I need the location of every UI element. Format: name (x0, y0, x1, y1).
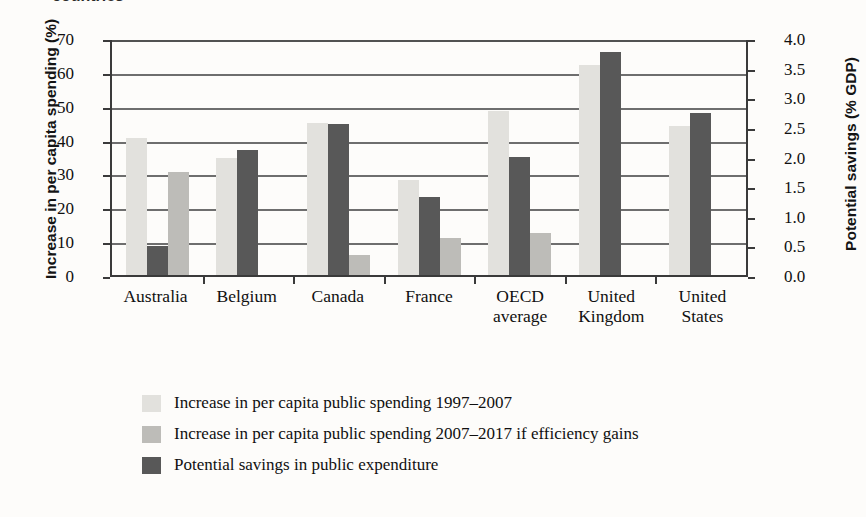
legend-item: Potential savings in public expenditure (142, 455, 639, 475)
bar-spending-2007-2017 (168, 172, 189, 275)
x-axis-tick (203, 276, 205, 284)
right-tick-mark (748, 129, 755, 131)
right-tick-mark (748, 277, 755, 279)
x-axis-tick (655, 276, 657, 284)
category-label: France (383, 287, 474, 326)
legend-label: Potential savings in public expenditure (174, 455, 438, 475)
left-tick-mark (103, 40, 110, 42)
right-tick-mark (748, 247, 755, 249)
legend-item: Increase in per capita public spending 1… (142, 393, 639, 413)
bar-group (474, 40, 565, 275)
bar-potential-savings (328, 124, 349, 275)
right-tick-label: 3.0 (784, 90, 805, 107)
category-label-line: Kingdom (566, 307, 657, 327)
bar-group (112, 40, 203, 275)
bar-group (655, 40, 746, 275)
right-tick-label: 3.5 (784, 61, 805, 78)
category-label: UnitedKingdom (566, 287, 657, 326)
category-label-line: States (657, 307, 748, 327)
right-tick-label: 1.5 (784, 179, 805, 196)
right-tick-label: 4.0 (784, 31, 805, 48)
legend-swatch-icon (142, 426, 161, 443)
legend-swatch-icon (142, 395, 161, 412)
bar-potential-savings (147, 246, 168, 275)
left-tick-mark (103, 108, 110, 110)
left-tick-mark (103, 209, 110, 211)
category-label: UnitedStates (657, 287, 748, 326)
bar-group (293, 40, 384, 275)
category-label-line: Canada (292, 287, 383, 307)
right-axis-title: Potential savings (% GDP) (842, 29, 860, 279)
left-tick-label: 0 (65, 268, 74, 285)
right-tick-label: 1.0 (784, 209, 805, 226)
left-tick-label: 50 (57, 99, 74, 116)
category-label: Australia (110, 287, 201, 326)
category-label-line: OECD (475, 287, 566, 307)
bar-spending-1997-2007 (488, 111, 509, 275)
legend-swatch-icon (142, 457, 161, 474)
right-tick-mark (748, 70, 755, 72)
category-label-line: average (475, 307, 566, 327)
x-axis-tick (474, 276, 476, 284)
bar-spending-2007-2017 (440, 238, 461, 275)
bar-spending-1997-2007 (307, 123, 328, 275)
bar-potential-savings (600, 52, 621, 275)
category-label-line: Australia (110, 287, 201, 307)
bar-potential-savings (690, 113, 711, 276)
bar-potential-savings (237, 150, 258, 275)
bar-spending-1997-2007 (126, 138, 147, 275)
x-axis-tick (565, 276, 567, 284)
bar-spending-1997-2007 (669, 126, 690, 275)
chart-legend: Increase in per capita public spending 1… (142, 393, 639, 475)
right-tick-mark (748, 159, 755, 161)
right-tick-mark (748, 218, 755, 220)
right-tick-mark (748, 99, 755, 101)
left-tick-label: 30 (57, 166, 74, 183)
right-tick-label: 2.5 (784, 120, 805, 137)
left-tick-label: 10 (57, 234, 74, 251)
category-label: OECDaverage (475, 287, 566, 326)
left-tick-mark (103, 142, 110, 144)
right-tick-label: 0.0 (784, 268, 805, 285)
bar-chart-figure: Increase in per capita spending (%) Pote… (0, 0, 866, 517)
category-label-line: France (383, 287, 474, 307)
left-tick-mark (103, 277, 110, 279)
left-tick-mark (103, 74, 110, 76)
left-tick-label: 70 (57, 31, 74, 48)
category-label-line: Belgium (201, 287, 292, 307)
x-axis-tick (293, 276, 295, 284)
bar-groups (112, 40, 746, 275)
right-tick-label: 0.5 (784, 238, 805, 255)
left-tick-label: 40 (57, 133, 74, 150)
category-label: Belgium (201, 287, 292, 326)
bar-spending-1997-2007 (216, 158, 237, 275)
category-label: Canada (292, 287, 383, 326)
right-tick-mark (748, 188, 755, 190)
category-label-line: United (566, 287, 657, 307)
left-tick-label: 20 (57, 200, 74, 217)
bar-potential-savings (419, 197, 440, 275)
right-tick-mark (748, 40, 755, 42)
bar-potential-savings (509, 157, 530, 276)
legend-label: Increase in per capita public spending 1… (174, 393, 512, 413)
bar-spending-1997-2007 (579, 65, 600, 275)
bar-spending-2007-2017 (349, 255, 370, 275)
left-tick-mark (103, 243, 110, 245)
category-axis-labels: AustraliaBelgiumCanadaFranceOECDaverageU… (110, 287, 748, 326)
right-tick-label: 2.0 (784, 150, 805, 167)
bar-group (565, 40, 656, 275)
legend-label: Increase in per capita public spending 2… (174, 424, 639, 444)
bar-group (203, 40, 294, 275)
legend-item: Increase in per capita public spending 2… (142, 424, 639, 444)
left-tick-mark (103, 175, 110, 177)
bar-group (384, 40, 475, 275)
plot-area: 010203040506070 0.00.51.01.52.02.53.03.5… (110, 40, 748, 277)
x-axis-tick (384, 276, 386, 284)
bar-spending-1997-2007 (398, 180, 419, 275)
bar-spending-2007-2017 (530, 233, 551, 275)
category-label-line: United (657, 287, 748, 307)
left-tick-label: 60 (57, 65, 74, 82)
